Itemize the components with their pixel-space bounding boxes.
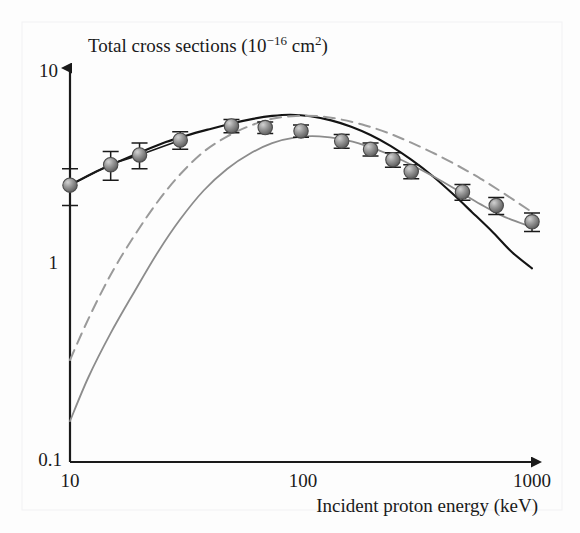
data-point [223, 119, 239, 133]
x-tick-label-100: 100 [289, 470, 318, 491]
data-marker [455, 185, 469, 199]
data-marker [258, 120, 272, 134]
chart-title-close: ) [321, 35, 327, 57]
data-marker [386, 152, 400, 166]
y-tick-label-1: 1 [49, 252, 59, 273]
data-point [257, 120, 273, 134]
data-marker [334, 134, 348, 148]
data-point [403, 164, 419, 179]
chart-title-units: cm [292, 35, 315, 56]
chart-title: Total cross sections (10−16 cm2) [88, 33, 328, 57]
chart-title-exponent: −16 [267, 33, 288, 48]
x-axis-label: Incident proton energy (keV) [316, 495, 538, 517]
data-marker [103, 157, 117, 171]
y-tick-label-10: 10 [39, 60, 58, 81]
figure-background [0, 0, 580, 533]
data-point [293, 124, 309, 138]
chart-canvas: Total cross sections (10−16 cm2) 10 1 0.… [0, 0, 580, 533]
data-marker [525, 215, 539, 229]
chart-title-main: Total cross sections (10 [88, 35, 267, 57]
data-marker [173, 133, 187, 147]
x-tick-label-10: 10 [61, 470, 80, 491]
data-marker [404, 164, 418, 178]
data-marker [489, 198, 503, 212]
figure-panel: Total cross sections (10−16 cm2) 10 1 0.… [0, 0, 580, 533]
data-point [334, 134, 350, 148]
data-marker [363, 142, 377, 156]
data-point [363, 142, 379, 156]
data-marker [132, 148, 146, 162]
x-tick-label-1000: 1000 [513, 470, 551, 491]
data-marker [294, 124, 308, 138]
y-tick-label-0.1: 0.1 [38, 449, 62, 470]
data-marker [224, 119, 238, 133]
data-marker [63, 178, 77, 192]
